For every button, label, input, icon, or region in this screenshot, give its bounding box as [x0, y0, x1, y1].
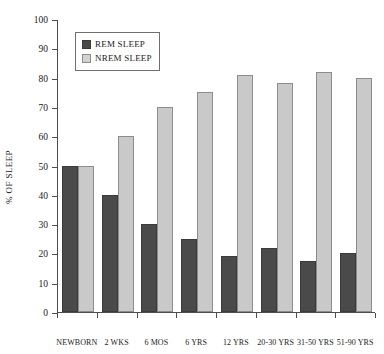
legend-swatch-rem	[82, 40, 91, 49]
x-axis-tick	[256, 313, 257, 318]
bar-nrem	[197, 92, 213, 312]
y-axis-tick	[52, 137, 57, 138]
x-axis-tick	[137, 313, 138, 318]
bar-rem	[102, 195, 118, 312]
bar-rem	[62, 166, 78, 313]
bar-nrem	[237, 75, 253, 312]
x-axis-tick-label: 6 MOS	[144, 338, 168, 347]
legend-swatch-nrem	[82, 54, 91, 63]
x-axis-tick-label: 20-30 YRS	[257, 338, 294, 347]
bar-nrem	[316, 72, 332, 312]
bar-nrem	[277, 83, 293, 312]
y-axis-tick-label: 20	[39, 249, 49, 259]
bar-group	[300, 20, 332, 312]
y-axis-tick-label: 60	[39, 132, 49, 142]
y-axis-title: % OF SLEEP	[0, 0, 18, 354]
bar-group	[221, 20, 253, 312]
y-axis-tick	[52, 108, 57, 109]
y-axis-tick	[52, 196, 57, 197]
x-axis-tick-label: 2 WKS	[105, 338, 129, 347]
bar-rem	[300, 261, 316, 312]
y-axis-tick-label: 70	[39, 103, 49, 113]
x-axis-tick	[296, 313, 297, 318]
y-axis-tick-label: 0	[43, 308, 48, 318]
y-axis-tick	[52, 254, 57, 255]
x-axis-tick-label: 6 YRS	[185, 338, 207, 347]
y-axis-tick	[52, 225, 57, 226]
x-axis-tick-label: NEWBORN	[56, 338, 97, 347]
bar-nrem	[356, 78, 372, 312]
legend-label: NREM SLEEP	[95, 53, 152, 63]
y-axis-tick-label: 10	[39, 279, 49, 289]
x-axis-tick-label: 51-90 YRS	[337, 338, 374, 347]
bar-nrem	[118, 136, 134, 312]
y-axis-tick-label: 30	[39, 220, 49, 230]
bar-rem	[141, 224, 157, 312]
y-axis-tick	[52, 167, 57, 168]
x-axis-tick-label: 12 YRS	[223, 338, 249, 347]
x-axis-tick	[176, 313, 177, 318]
x-axis-tick-label: 31-50 YRS	[297, 338, 334, 347]
x-axis-tick	[375, 313, 376, 318]
y-axis-tick-label: 90	[39, 44, 49, 54]
bar-group	[261, 20, 293, 312]
legend-entry-nrem: NREM SLEEP	[82, 51, 152, 65]
sleep-stage-bar-chart: % OF SLEEP 0102030405060708090100 NEWBOR…	[0, 0, 384, 354]
x-axis-tick	[97, 313, 98, 318]
x-axis-tick	[57, 313, 58, 318]
bar-group	[340, 20, 372, 312]
y-axis-tick	[52, 20, 57, 21]
bar-rem	[340, 253, 356, 312]
bar-rem	[261, 248, 277, 312]
chart-legend: REM SLEEPNREM SLEEP	[75, 32, 160, 71]
y-axis-tick-label: 50	[39, 162, 49, 172]
y-axis-tick	[52, 49, 57, 50]
legend-label: REM SLEEP	[95, 39, 145, 49]
y-axis-tick	[52, 79, 57, 80]
x-axis-tick	[335, 313, 336, 318]
y-axis-tick	[52, 284, 57, 285]
legend-entry-rem: REM SLEEP	[82, 37, 152, 51]
x-axis-tick	[216, 313, 217, 318]
bar-rem	[221, 256, 237, 312]
bar-group	[181, 20, 213, 312]
y-axis-tick-label: 40	[39, 191, 49, 201]
bar-nrem	[78, 166, 94, 313]
y-axis-tick-label: 80	[39, 74, 49, 84]
bar-nrem	[157, 107, 173, 312]
bar-rem	[181, 239, 197, 312]
y-axis-tick-label: 100	[34, 15, 48, 25]
